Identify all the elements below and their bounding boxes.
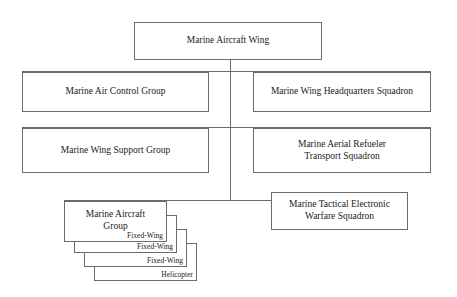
stack-card-label: Fixed-Wing bbox=[137, 242, 176, 252]
node-label: Marine Wing Headquarters Squadron bbox=[267, 86, 417, 98]
stack-card-label: Helicopter bbox=[161, 270, 196, 280]
node-label: Marine Aerial Refueler Transport Squadro… bbox=[294, 139, 390, 163]
node-label: Marine Aircraft Wing bbox=[183, 35, 273, 47]
node-label: Marine Wing Support Group bbox=[57, 145, 174, 157]
node-marine-aircraft-wing[interactable]: Marine Aircraft Wing bbox=[134, 22, 322, 60]
trunk-vertical-connector bbox=[230, 60, 231, 201]
node-marine-aircraft-group[interactable]: Marine Aircraft Group Fixed-Wing bbox=[64, 201, 167, 242]
node-label: Marine Aircraft Group bbox=[65, 209, 166, 233]
org-chart-diagram: Marine Aircraft Wing Marine Air Control … bbox=[0, 0, 457, 297]
stack-card-label: Fixed-Wing bbox=[147, 256, 186, 266]
node-marine-wing-headquarters-squadron[interactable]: Marine Wing Headquarters Squadron bbox=[253, 72, 431, 112]
node-marine-aerial-refueler-transport-squadron[interactable]: Marine Aerial Refueler Transport Squadro… bbox=[253, 128, 431, 173]
stack-card-label: Fixed-Wing bbox=[127, 231, 163, 240]
node-label: Marine Tactical Electronic Warfare Squad… bbox=[285, 199, 394, 223]
node-marine-wing-support-group[interactable]: Marine Wing Support Group bbox=[22, 128, 209, 173]
node-marine-tactical-electronic-warfare-squadron[interactable]: Marine Tactical Electronic Warfare Squad… bbox=[271, 192, 408, 230]
node-marine-air-control-group[interactable]: Marine Air Control Group bbox=[22, 72, 209, 112]
node-label: Marine Air Control Group bbox=[61, 86, 169, 98]
